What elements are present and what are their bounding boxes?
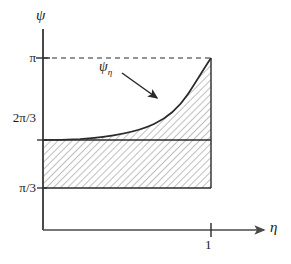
psi-axis-label: ψ: [36, 8, 45, 23]
tick-label-eta-one: 1: [205, 238, 212, 251]
plot-canvas: [0, 0, 291, 264]
psi-eta-base: ψ: [99, 59, 108, 74]
hatched-region: [43, 58, 211, 188]
psi-eta-curve-label: ψη: [99, 60, 112, 77]
tick-label-pi-over-3: π/3: [4, 181, 36, 194]
psi-eta-subscript: η: [108, 67, 112, 77]
eta-axis-label: η: [270, 220, 277, 235]
tick-label-2pi-over-3: 2π/3: [0, 111, 36, 124]
figure-container: ψ η π 2π/3 π/3 1 ψη: [0, 0, 291, 264]
tick-label-pi: π: [8, 51, 36, 64]
psi-eta-annotation-arrow: [122, 73, 157, 98]
